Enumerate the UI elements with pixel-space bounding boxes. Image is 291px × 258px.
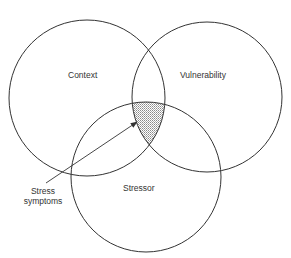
intersection-shaded-region <box>71 102 221 252</box>
stressor-label: Stressor <box>123 183 155 193</box>
pointer-arrow <box>46 122 137 183</box>
context-label: Context <box>68 70 97 80</box>
venn-diagram <box>0 0 291 258</box>
label-line-2: symptoms <box>22 196 64 206</box>
vulnerability-circle <box>132 22 282 172</box>
vulnerability-label: Vulnerability <box>180 70 226 80</box>
label-line-1: Stress <box>22 186 64 196</box>
context-circle <box>9 20 165 176</box>
stress-symptoms-label: Stress symptoms <box>22 186 64 206</box>
